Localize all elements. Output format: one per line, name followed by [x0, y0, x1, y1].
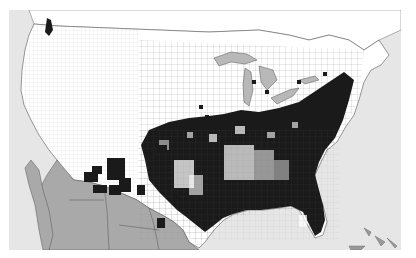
county-grid-east-overlay: [139, 130, 339, 240]
distribution-map: [9, 10, 401, 250]
map-frame: [9, 10, 401, 250]
